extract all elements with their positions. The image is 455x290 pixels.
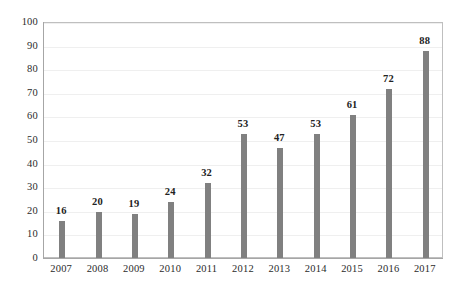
x-axis-line	[43, 258, 443, 259]
bars-container	[44, 23, 444, 259]
bar-chart: 0102030405060708090100 20072008200920102…	[0, 0, 455, 290]
y-axis-tick-label: 80	[0, 64, 38, 75]
y-axis-line	[43, 22, 44, 259]
y-axis-tick-label: 90	[0, 41, 38, 52]
bar-value-label: 24	[150, 187, 190, 198]
bar-value-label: 16	[41, 206, 81, 217]
bar-value-label: 53	[223, 119, 263, 130]
bar	[205, 183, 211, 259]
bar	[350, 115, 356, 259]
bar-value-label: 53	[296, 119, 336, 130]
bar-value-label: 19	[114, 199, 154, 210]
bar	[386, 89, 392, 259]
y-axis-tick-label: 10	[0, 229, 38, 240]
bar	[277, 148, 283, 259]
y-axis-tick-label: 60	[0, 111, 38, 122]
bar	[59, 221, 65, 259]
y-axis-tick-label: 70	[0, 88, 38, 99]
bar-value-label: 88	[405, 36, 445, 47]
y-axis-tick-label: 100	[0, 17, 38, 28]
y-axis-tick-label: 0	[0, 253, 38, 264]
bar-value-label: 32	[187, 168, 227, 179]
bar	[241, 134, 247, 259]
bar	[314, 134, 320, 259]
x-axis-tick-label: 2017	[403, 263, 447, 275]
bar	[168, 202, 174, 259]
bar-value-label: 61	[332, 100, 372, 111]
y-axis-tick-label: 40	[0, 159, 38, 170]
y-axis-tick-label: 50	[0, 135, 38, 146]
bar	[423, 51, 429, 259]
y-axis-tick-label: 30	[0, 182, 38, 193]
bar-value-label: 47	[259, 133, 299, 144]
plot-area	[43, 22, 443, 258]
y-axis-tick-label: 20	[0, 206, 38, 217]
bar-value-label: 72	[368, 74, 408, 85]
bar-value-label: 20	[78, 197, 118, 208]
bar	[132, 214, 138, 259]
bar	[96, 212, 102, 259]
